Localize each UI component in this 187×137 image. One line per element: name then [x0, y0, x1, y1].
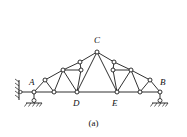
- right-roller: [158, 99, 162, 103]
- truss-joint-R3: [112, 60, 116, 64]
- node-label-D: D: [73, 99, 80, 108]
- truss-joint-n1: [52, 90, 56, 94]
- node-label-B: B: [160, 78, 166, 87]
- node-label-A: A: [29, 78, 35, 87]
- truss-joint-C: [95, 50, 99, 54]
- node-label-E: E: [112, 99, 118, 108]
- truss-joint-D: [75, 90, 79, 94]
- truss-member: [117, 70, 131, 92]
- supports-group: [15, 79, 168, 107]
- left-wall-hatching: [15, 79, 19, 98]
- left-wall-pin: [19, 90, 22, 93]
- truss-member: [131, 70, 140, 92]
- truss-joint-L4: [79, 68, 83, 72]
- right-ground-hatching: [151, 103, 169, 107]
- left-ground-hatching: [25, 103, 43, 107]
- truss-member: [114, 62, 131, 70]
- truss-joint-A: [32, 90, 36, 94]
- node-label-C: C: [94, 36, 100, 45]
- truss-member: [54, 70, 63, 92]
- truss-joint-L3: [78, 60, 82, 64]
- truss-member: [63, 70, 77, 92]
- truss-joint-R2: [129, 68, 133, 72]
- truss-joint-E: [115, 90, 119, 94]
- truss-nodes-group: [32, 50, 162, 94]
- figure-caption: (a): [0, 118, 187, 128]
- truss-joint-B: [158, 90, 162, 94]
- truss-joint-L1: [43, 78, 47, 82]
- truss-joint-R4: [111, 68, 115, 72]
- truss-joint-n2: [138, 90, 142, 94]
- truss-members-group: [34, 52, 160, 92]
- truss-joint-R1: [148, 78, 152, 82]
- truss-member: [63, 62, 80, 70]
- left-roller: [32, 99, 36, 103]
- figure-container: ABCDE (a): [0, 0, 187, 137]
- truss-member: [45, 70, 63, 80]
- truss-joint-L2: [61, 68, 65, 72]
- truss-member: [131, 70, 150, 80]
- truss-diagram-svg: [0, 0, 187, 137]
